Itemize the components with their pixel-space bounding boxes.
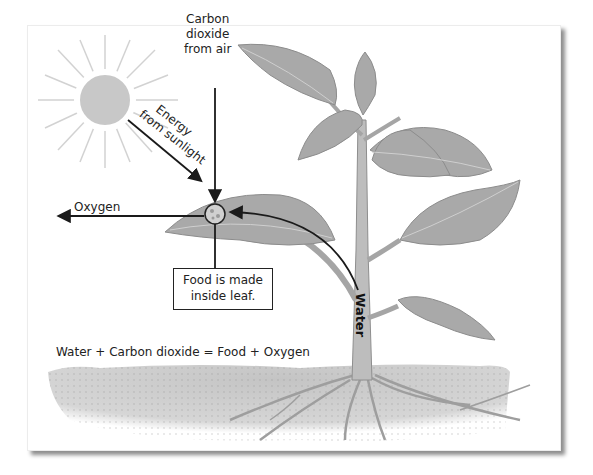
label-line: dioxide	[184, 27, 231, 42]
equation-label: Water + Carbon dioxide = Food + Oxygen	[56, 345, 310, 359]
water-label: Water	[353, 293, 367, 337]
label-line: Carbon	[184, 12, 231, 27]
food-made-box: Food is made inside leaf.	[173, 268, 273, 310]
label-line: from air	[184, 42, 231, 57]
leaf-cell-icon	[205, 204, 225, 224]
label-line: Food is made	[174, 272, 272, 288]
oxygen-label: Oxygen	[74, 200, 120, 214]
carbon-dioxide-label: Carbon dioxide from air	[184, 12, 231, 57]
stem	[352, 120, 372, 380]
label-line: inside leaf.	[174, 288, 272, 304]
plant-illustration	[0, 0, 593, 475]
